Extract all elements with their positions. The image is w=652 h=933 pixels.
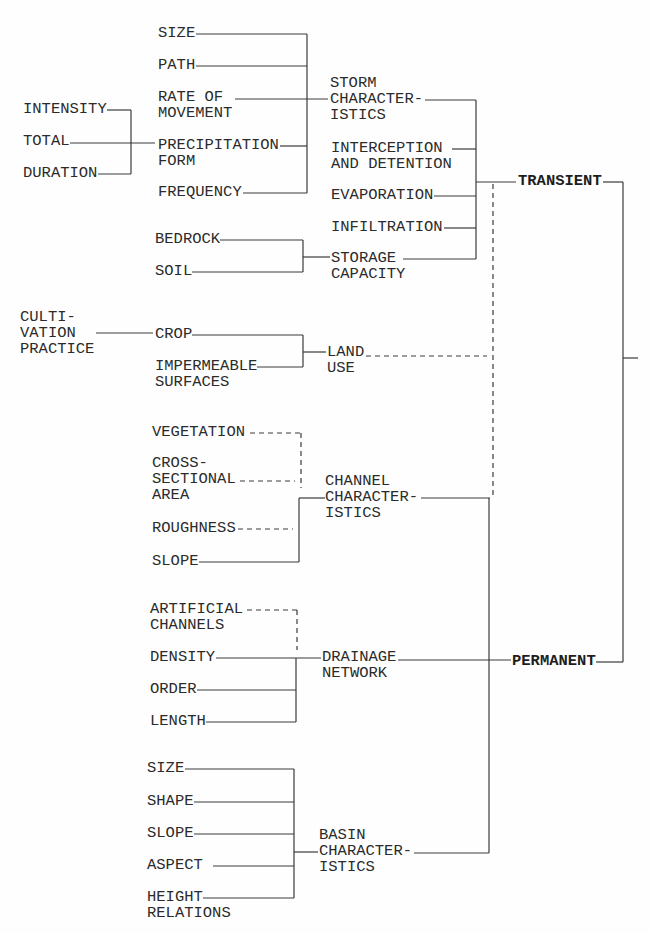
node-storm-characteristics: STORM CHARACTER- ISTICS [330, 76, 423, 123]
node-cultivation-practice: CULTI- VATION PRACTICE [20, 310, 94, 357]
node-land-use: LAND USE [327, 345, 364, 377]
node-permanent: PERMANENT [512, 654, 596, 670]
node-artificial-channels: ARTIFICIAL CHANNELS [150, 602, 243, 634]
node-rate-of-movement: RATE OF MOVEMENT [158, 90, 232, 122]
node-order: ORDER [150, 682, 197, 698]
node-aspect: ASPECT [147, 858, 203, 874]
node-storage-capacity: STORAGE CAPACITY [331, 251, 405, 283]
node-impermeable-surfaces: IMPERMEABLE SURFACES [155, 359, 257, 391]
node-drainage-network: DRAINAGE NETWORK [322, 650, 396, 682]
node-length: LENGTH [150, 714, 206, 730]
node-density: DENSITY [150, 650, 215, 666]
node-duration: DURATION [23, 166, 97, 182]
node-vegetation: VEGETATION [152, 425, 245, 441]
node-channel-slope: SLOPE [152, 554, 199, 570]
node-soil: SOIL [155, 264, 192, 280]
node-cross-sectional-area: CROSS- SECTIONAL AREA [152, 456, 236, 503]
node-roughness: ROUGHNESS [152, 521, 236, 537]
node-total: TOTAL [23, 134, 70, 150]
node-crop: CROP [155, 327, 192, 343]
node-height-relations: HEIGHT RELATIONS [147, 890, 231, 922]
hydrologic-factors-diagram: INTENSITY TOTAL DURATION SIZE PATH RATE … [0, 0, 652, 933]
node-channel-characteristics: CHANNEL CHARACTER- ISTICS [325, 474, 418, 521]
node-storm-size: SIZE [158, 26, 195, 42]
node-evaporation: EVAPORATION [331, 188, 433, 204]
node-path: PATH [158, 58, 195, 74]
connector-lines [0, 0, 652, 933]
node-basin-slope: SLOPE [147, 826, 194, 842]
node-precipitation-form: PRECIPITATION FORM [158, 138, 279, 170]
node-frequency: FREQUENCY [158, 185, 242, 201]
node-transient: TRANSIENT [518, 174, 602, 190]
node-basin-size: SIZE [147, 761, 184, 777]
node-basin-characteristics: BASIN CHARACTER- ISTICS [319, 828, 412, 875]
node-shape: SHAPE [147, 794, 194, 810]
node-intensity: INTENSITY [23, 102, 107, 118]
node-bedrock: BEDROCK [155, 232, 220, 248]
node-infiltration: INFILTRATION [331, 220, 443, 236]
node-interception-detention: INTERCEPTION AND DETENTION [331, 141, 452, 173]
